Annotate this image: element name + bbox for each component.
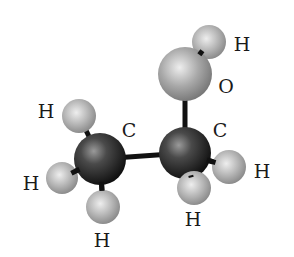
atom-label-h-c1a: H — [38, 100, 55, 122]
atom-label-c1: C — [122, 119, 137, 141]
atom-label-h-c2a: H — [254, 160, 271, 182]
hydrogen-atom-h-c2b — [177, 171, 211, 205]
atom-label-o: O — [218, 75, 234, 97]
hydrogen-atom-h-c1b — [46, 162, 78, 194]
atom-label-c2: C — [213, 119, 228, 141]
bond-stub-h-c2a — [207, 160, 216, 163]
carbon-atom-c1 — [74, 133, 126, 185]
hydrogen-atom-h-c2a — [212, 150, 246, 184]
hydrogen-atom-h-c1a — [62, 99, 96, 133]
atom-label-h-o: H — [234, 33, 251, 55]
labels-layer: CCOHHHHHH — [23, 33, 271, 251]
ethanol-molecule-diagram: CCOHHHHHH — [0, 0, 294, 257]
hydrogen-atom-h-c1c — [86, 190, 120, 224]
carbon-atom-c2 — [159, 127, 211, 179]
atom-label-h-c2b: H — [185, 208, 202, 230]
atom-label-h-c1c: H — [94, 229, 111, 251]
bond-stub-h-c2b — [191, 175, 192, 177]
bond-stub-h-c1c — [101, 182, 102, 191]
bond-stub-h-o — [199, 51, 202, 55]
atom-label-h-c1b: H — [23, 172, 40, 194]
oxygen-atom-o — [158, 47, 212, 101]
